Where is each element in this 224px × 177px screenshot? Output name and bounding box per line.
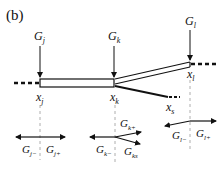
label-gks: Gks: [124, 145, 138, 160]
label-gj: Gj: [34, 29, 46, 45]
arrow-gks: [115, 137, 140, 144]
label-gj-minus: Gj−: [22, 143, 37, 158]
label-xl: xl: [186, 67, 195, 83]
label-xj: xj: [35, 90, 44, 106]
label-gl: Gl: [185, 14, 197, 30]
branch-kl-bottom: [115, 67, 190, 84]
branching-beam-diagram: (b) Gj Gk Gl xj xk xl xs Gj− Gj+ Gk+ Gk−…: [0, 0, 224, 177]
label-xs: xs: [165, 100, 174, 116]
branch-ks: [115, 86, 168, 97]
label-gk: Gk: [108, 29, 121, 45]
arrow-gl-minus: [165, 121, 190, 126]
label-gl-minus: Gl−: [172, 129, 187, 144]
label-gj-plus: Gj+: [46, 143, 61, 158]
label-gl-plus: Gl+: [196, 127, 211, 142]
arrow-gk-plus: [115, 132, 141, 137]
beam-jk: [40, 79, 114, 87]
label-gk-plus: Gk+: [120, 117, 136, 132]
branch-kl-top: [115, 62, 190, 79]
label-xk: xk: [109, 90, 119, 106]
label-gk-minus: Gk−: [96, 143, 112, 158]
panel-label: (b): [6, 7, 24, 24]
